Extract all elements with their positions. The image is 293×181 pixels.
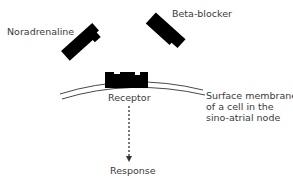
beta-blocker-label: Beta-blocker [172, 8, 232, 19]
receptor-shape [105, 72, 148, 88]
membrane-label-line3: sino-atrial node [206, 112, 280, 123]
membrane-label-line2: of a cell in the [206, 101, 274, 112]
noradrenaline-label: Noradrenaline [7, 26, 74, 37]
receptor-label: Receptor [108, 92, 151, 103]
response-label: Response [110, 165, 156, 176]
arrow-head-icon [126, 156, 132, 162]
membrane-label-line1: Surface membrane [206, 90, 293, 101]
